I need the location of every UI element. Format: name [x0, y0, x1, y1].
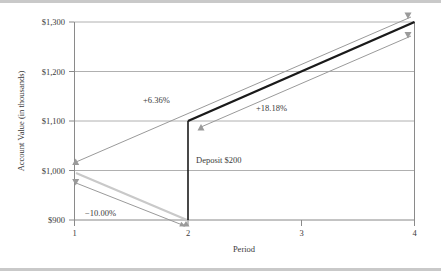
x-tick-labels: 1 2 3 4	[72, 228, 417, 238]
y-tick-label: $1,200	[42, 67, 65, 77]
account-value-line-chart: $1,300 $1,200 $1,100 $1,000 $900 1 2 3 4…	[0, 0, 441, 271]
x-axis-title: Period	[233, 244, 256, 254]
chart-canvas: $1,300 $1,200 $1,100 $1,000 $900 1 2 3 4…	[0, 0, 441, 271]
x-tick-label: 4	[412, 228, 417, 238]
return-period2-annotation: +18.18%	[256, 103, 287, 113]
y-tick-labels: $1,300 $1,200 $1,100 $1,000 $900	[42, 17, 65, 225]
y-axis-title: Account Value (in thousands)	[16, 71, 26, 172]
y-tick-label: $1,100	[42, 116, 65, 126]
loss-annotation: −10.00%	[85, 208, 116, 218]
y-axis-ticks	[69, 22, 74, 220]
x-axis-ticks	[75, 220, 415, 226]
y-tick-label: $900	[48, 215, 65, 225]
return-period1-annotation: +6.36%	[143, 95, 170, 105]
x-tick-label: 2	[186, 228, 190, 238]
x-tick-label: 1	[72, 228, 76, 238]
time-weighted-arrow-head	[405, 13, 412, 20]
y-tick-label: $1,300	[42, 17, 65, 27]
deposit-annotation: Deposit $200	[196, 155, 242, 165]
x-tick-label: 3	[299, 228, 303, 238]
y-tick-label: $1,000	[42, 166, 65, 176]
